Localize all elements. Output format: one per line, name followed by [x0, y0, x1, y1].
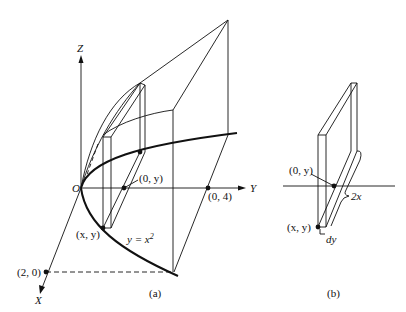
label-x-y: (x, y): [76, 228, 100, 241]
slab-bottom-diag: [103, 152, 140, 228]
surface-cross-curve: [103, 110, 173, 135]
label-zero-y: (0, y): [139, 172, 163, 185]
b-dy-tick: [320, 229, 325, 234]
origin-label: O: [72, 182, 80, 194]
x-axis-label: X: [34, 294, 43, 306]
b-label-x-y: (x, y): [287, 221, 311, 234]
surface-back-diag: [174, 135, 228, 272]
caption-b: (b): [327, 287, 340, 300]
b-slab-diag2: [326, 151, 357, 227]
point-x-y: [101, 226, 106, 231]
slab-top-left: [103, 83, 140, 137]
y-axis-arrow-icon: [238, 186, 246, 191]
point-two-zero: [44, 270, 49, 275]
point-slab-back: [138, 150, 143, 155]
point-zero-y: [122, 186, 127, 191]
b-label-2x: 2x: [351, 190, 362, 202]
b-point-x-y: [316, 225, 321, 230]
x-axis-arrow-icon: [39, 285, 45, 294]
b-label-dy: dy: [326, 233, 337, 245]
slab-top-cap: [140, 83, 145, 85]
b-leader-zero-y: [311, 174, 334, 186]
label-two-zero: (2, 0): [17, 266, 41, 279]
surface-mid-diag: [173, 20, 228, 110]
b-label-zero-y: (0, y): [289, 164, 313, 177]
figure-canvas: Z Y X O (0, y) (0, 4) (x, y) (2, 0) y = …: [0, 0, 406, 312]
z-axis-label: Z: [77, 42, 84, 54]
b-slab-top-right: [326, 83, 357, 135]
caption-a: (a): [149, 287, 162, 300]
z-axis-arrow-icon: [79, 55, 84, 63]
label-zero-four: (0, 4): [208, 190, 232, 203]
b-slab-top-left: [318, 83, 351, 135]
curve-label: y = x2: [126, 232, 154, 245]
y-axis-label: Y: [250, 182, 258, 194]
b-point-zero-y: [332, 184, 337, 189]
slab-bottom-diag2: [111, 152, 145, 228]
